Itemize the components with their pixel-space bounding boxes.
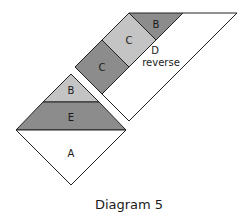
label-b-bottom: B <box>68 85 75 96</box>
label-b-top: B <box>153 19 160 30</box>
diagram-caption: Diagram 5 <box>95 197 163 212</box>
label-a: A <box>68 148 75 159</box>
quilt-diagram: B C C D reverse B E A Diagram 5 <box>0 0 247 218</box>
label-c-dark: C <box>99 62 106 73</box>
label-c-light: C <box>126 35 133 46</box>
label-d-reverse: reverse <box>142 57 180 68</box>
label-d: D <box>151 45 159 56</box>
label-e: E <box>68 112 74 123</box>
